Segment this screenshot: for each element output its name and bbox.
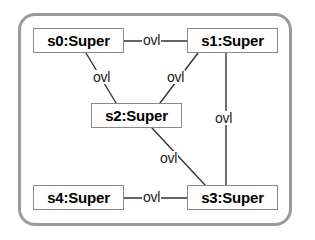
edge-label-s1-s3: ovl bbox=[214, 111, 233, 125]
node-label: s4:Super bbox=[47, 189, 110, 206]
edge-label-s4-s3: ovl bbox=[142, 190, 161, 204]
diagram-canvas: s0:Supers1:Supers2:Supers4:Supers3:Super… bbox=[0, 0, 315, 240]
node-s0[interactable]: s0:Super bbox=[33, 28, 124, 53]
node-s2[interactable]: s2:Super bbox=[91, 103, 182, 128]
edge-label-s1-s2: ovl bbox=[166, 70, 185, 84]
node-s4[interactable]: s4:Super bbox=[33, 185, 124, 210]
node-s3[interactable]: s3:Super bbox=[187, 185, 278, 210]
edge-label-s2-s3: ovl bbox=[159, 151, 178, 165]
edge-label-s0-s1: ovl bbox=[142, 33, 161, 47]
node-label: s3:Super bbox=[201, 189, 264, 206]
edge-label-s0-s2: ovl bbox=[92, 70, 111, 84]
node-label: s1:Super bbox=[201, 32, 264, 49]
node-s1[interactable]: s1:Super bbox=[187, 28, 278, 53]
node-label: s2:Super bbox=[105, 107, 168, 124]
node-label: s0:Super bbox=[47, 32, 110, 49]
